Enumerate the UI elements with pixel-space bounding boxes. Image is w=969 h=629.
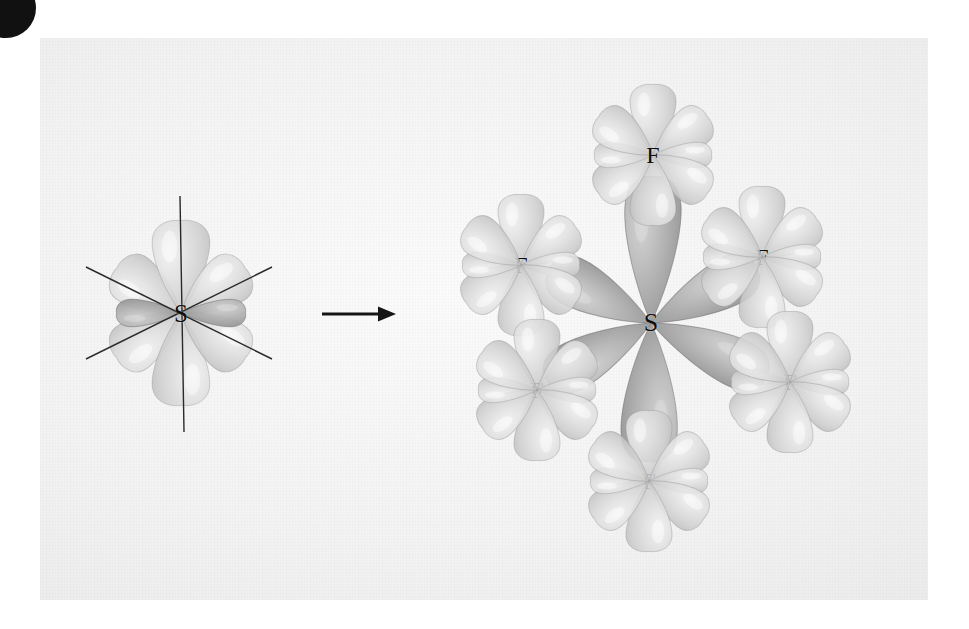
orbital-stage: SSFFFFFF — [40, 38, 928, 600]
figure-page: SSFFFFFF — [0, 0, 969, 629]
fluorine-top-label: F — [646, 143, 659, 167]
left-sulfur-label: S — [174, 301, 188, 326]
page-corner-bullet — [0, 0, 36, 38]
main-sulfur-label: S — [644, 310, 658, 336]
photographic-plate: SSFFFFFF — [40, 38, 928, 600]
